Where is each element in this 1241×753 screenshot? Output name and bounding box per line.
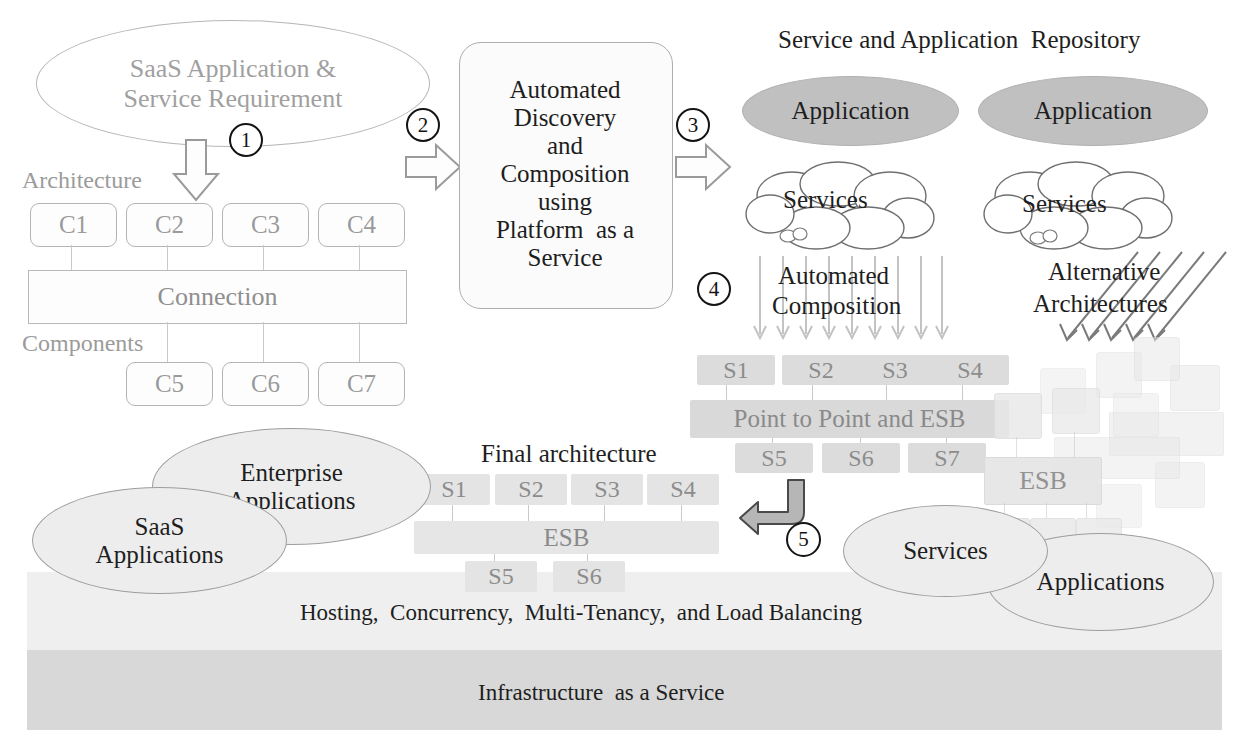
- ghost-connector: [1086, 503, 1087, 518]
- service-label: S1: [441, 476, 466, 503]
- service-label: S5: [488, 563, 513, 590]
- step-5-label: 5: [798, 527, 809, 552]
- final-esb-bar: ESB: [414, 521, 719, 554]
- final-service-s5: S5: [465, 561, 537, 592]
- connector-final-s3: [604, 505, 605, 521]
- applications-label: Applications: [1037, 568, 1165, 596]
- connector-final-s2: [528, 505, 529, 521]
- alternative-esb-bar: ESB: [984, 457, 1102, 505]
- ghost-node: [994, 393, 1042, 439]
- ghost-node: [1113, 393, 1159, 437]
- bus-label: ESB: [544, 524, 590, 552]
- enterprise-line-1: Enterprise: [240, 459, 343, 487]
- saas-line-1: SaaS: [135, 513, 185, 541]
- ghost-connector: [1016, 437, 1017, 457]
- saas-line-2: Applications: [96, 541, 224, 569]
- services-label: Services: [903, 537, 988, 565]
- connector-final-s1: [452, 505, 453, 521]
- saas-applications-ellipse: SaaS Applications: [32, 487, 287, 594]
- final-service-s6: S6: [553, 561, 625, 592]
- ghost-connector: [1046, 503, 1047, 518]
- diagram-canvas: Hosting, Concurrency, Multi-Tenancy, and…: [0, 0, 1241, 753]
- esb-label: ESB: [1019, 466, 1067, 496]
- final-service-s3: S3: [571, 474, 643, 505]
- final-architecture-title: Final architecture: [481, 440, 657, 468]
- service-label: S2: [518, 476, 543, 503]
- connector-final-s4: [681, 505, 682, 521]
- ghost-node: [1134, 337, 1180, 381]
- service-label: S6: [576, 563, 601, 590]
- step-5-badge: 5: [786, 522, 821, 557]
- service-label: S3: [594, 476, 619, 503]
- service-label: S4: [670, 476, 695, 503]
- ghost-node: [1052, 388, 1100, 434]
- services-ellipse-bottom-right: Services: [843, 505, 1048, 597]
- final-service-s4: S4: [647, 474, 719, 505]
- ghost-connector: [1074, 432, 1075, 457]
- final-service-s2: S2: [495, 474, 567, 505]
- alternative-architectures-cluster: ESB: [0, 0, 1241, 753]
